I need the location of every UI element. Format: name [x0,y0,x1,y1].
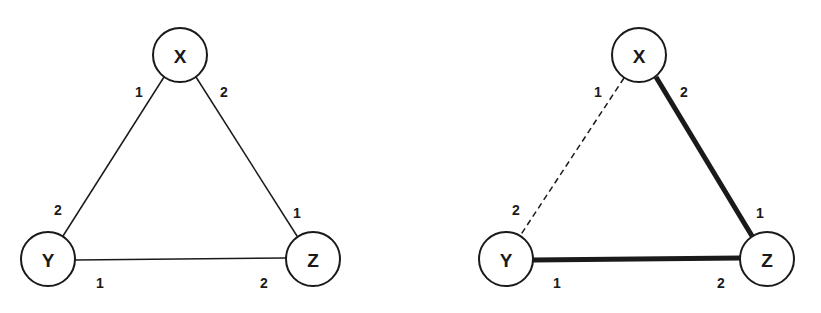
right-graph: X Y Z 1 2 2 1 1 2 [479,28,794,291]
edge-x-z-thick [656,77,752,236]
node-x: X [612,28,666,82]
node-x-label: X [633,46,646,67]
node-x-label: X [174,46,187,67]
diagram-canvas: X Y Z 1 2 2 1 1 2 X Y Z [0,0,821,313]
port-label-x-y: 1 [135,84,143,100]
node-y: Y [21,232,75,286]
port-label-y-x: 2 [54,202,62,218]
edge-y-z-thick [533,258,740,260]
node-z-label: Z [307,250,319,271]
port-label-y-z: 1 [553,275,561,291]
port-label-y-x: 2 [512,202,520,218]
edge-x-z [196,77,297,236]
node-y-label: Y [42,250,55,271]
port-label-z-x: 1 [756,205,764,221]
node-x: X [153,28,207,82]
node-z: Z [286,232,340,286]
port-label-y-z: 1 [96,275,104,291]
edge-x-y [63,77,164,236]
port-label-x-z: 2 [680,84,688,100]
node-z: Z [740,232,794,286]
edge-x-y-dashed [520,78,624,236]
node-y: Y [479,232,533,286]
edge-y-z [75,258,286,260]
port-label-z-y: 2 [260,275,268,291]
port-label-z-y: 2 [717,275,725,291]
port-label-z-x: 1 [293,205,301,221]
node-z-label: Z [761,250,773,271]
left-graph: X Y Z 1 2 2 1 1 2 [21,28,340,291]
port-label-x-y: 1 [594,84,602,100]
node-y-label: Y [500,250,513,271]
port-label-x-z: 2 [220,84,228,100]
